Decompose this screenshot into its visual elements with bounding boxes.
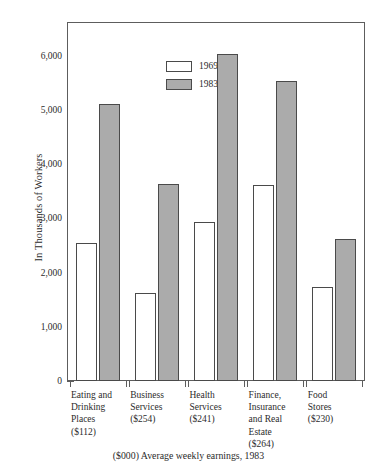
y-axis-tick-label: 3,000 — [22, 213, 62, 223]
bar-1983-3 — [217, 54, 238, 381]
x-axis-label-5: FoodStores($230) — [308, 389, 363, 426]
bar-chart-figure: In Thousands of Workers 01,0002,0003,000… — [0, 0, 377, 470]
bar-1969-4 — [253, 185, 274, 381]
y-axis-tick-label: 4,000 — [22, 159, 62, 169]
x-axis-label-3: HealthServices($241) — [189, 389, 244, 426]
y-axis-tick-label: 1,000 — [22, 322, 62, 332]
x-axis-tick — [70, 381, 71, 387]
x-axis-label-4: Finance,Insuranceand RealEstate($264) — [249, 389, 304, 450]
bar-1983-4 — [276, 81, 297, 382]
bar-group — [305, 23, 364, 381]
x-axis-tick — [362, 381, 363, 387]
x-axis-label-2: BusinessServices($254) — [130, 389, 185, 426]
y-axis-tick-label: 0 — [22, 376, 62, 386]
bar-group — [127, 23, 186, 381]
x-axis-tick — [244, 381, 245, 387]
bars-layer — [68, 23, 364, 381]
y-axis-tick-label: 2,000 — [22, 268, 62, 278]
bar-group — [68, 23, 127, 381]
x-axis-category-labels: Eating andDrinkingPlaces($112)BusinessSe… — [68, 389, 366, 459]
bar-group — [246, 23, 305, 381]
bar-1983-2 — [158, 184, 179, 381]
chart-caption: ($000) Average weekly earnings, 1983 — [0, 450, 377, 461]
bar-1983-1 — [99, 104, 120, 381]
x-axis-tick — [188, 381, 189, 387]
bar-group — [186, 23, 245, 381]
x-axis-tick — [306, 381, 307, 387]
y-axis-title: In Thousands of Workers — [33, 98, 44, 318]
bar-1969-2 — [135, 293, 156, 381]
y-axis-tick-label: 6,000 — [22, 51, 62, 61]
bar-1969-3 — [194, 222, 215, 381]
x-axis-tick — [185, 381, 186, 387]
y-axis-tick-label: 5,000 — [22, 105, 62, 115]
x-axis-tick — [129, 381, 130, 387]
bar-1969-1 — [76, 243, 97, 381]
x-axis-tick — [126, 381, 127, 387]
x-axis-tick — [247, 381, 248, 387]
bar-1983-5 — [335, 239, 356, 381]
x-axis-tick — [303, 381, 304, 387]
bar-1969-5 — [312, 287, 333, 381]
x-axis-label-1: Eating andDrinkingPlaces($112) — [71, 389, 126, 438]
